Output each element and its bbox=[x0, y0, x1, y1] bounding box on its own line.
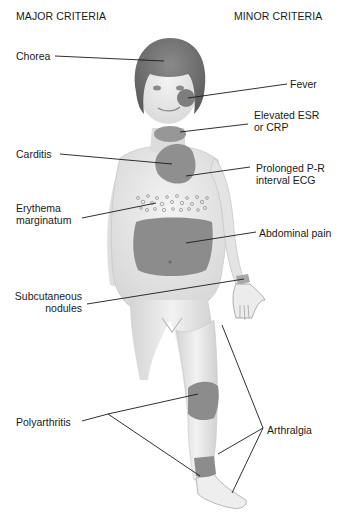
label-erythema-line2: marginatum bbox=[16, 214, 71, 226]
knee-highlight bbox=[188, 382, 219, 420]
label-erythema-line1: Erythema bbox=[16, 202, 71, 214]
label-polyarthritis: Polyarthritis bbox=[16, 416, 71, 428]
label-abdominal-pain: Abdominal pain bbox=[259, 227, 331, 239]
label-arthralgia: Arthralgia bbox=[267, 424, 312, 436]
label-nodules-line2: nodules bbox=[14, 302, 82, 314]
label-esr-line2: or CRP bbox=[254, 121, 319, 133]
label-esr-line1: Elevated ESR bbox=[254, 109, 319, 121]
neck-highlight bbox=[154, 126, 186, 142]
minor-criteria-header: MINOR CRITERIA bbox=[234, 10, 322, 22]
label-fever: Fever bbox=[290, 78, 317, 90]
label-erythema-marginatum: Erythema marginatum bbox=[16, 202, 71, 226]
label-carditis: Carditis bbox=[16, 148, 52, 160]
label-subcutaneous-nodules: Subcutaneous nodules bbox=[14, 290, 82, 314]
major-criteria-header: MAJOR CRITERIA bbox=[16, 10, 106, 22]
jones-criteria-diagram: MAJOR CRITERIA MINOR CRITERIA Chorea Car… bbox=[0, 0, 339, 519]
label-prolonged-pr: Prolonged P-R interval ECG bbox=[256, 162, 325, 186]
label-nodules-line1: Subcutaneous bbox=[14, 290, 82, 302]
label-pr-line2: interval ECG bbox=[256, 174, 325, 186]
abdomen-highlight bbox=[133, 218, 213, 277]
child-figure-illustration bbox=[0, 0, 339, 519]
label-elevated-esr: Elevated ESR or CRP bbox=[254, 109, 319, 133]
label-pr-line1: Prolonged P-R bbox=[256, 162, 325, 174]
cheek-highlight bbox=[177, 89, 195, 107]
hand bbox=[233, 284, 265, 318]
label-chorea: Chorea bbox=[16, 50, 50, 62]
